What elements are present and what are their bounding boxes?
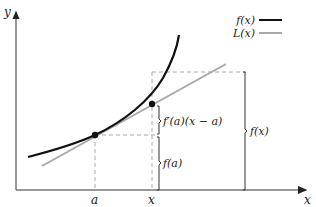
curve-f [28,35,179,157]
brace-fa [157,137,161,190]
legend: f(x) L(x) [232,14,282,40]
brace-fx [243,72,247,190]
y-axis-label: y [3,5,11,19]
x-axis-label: x [304,193,311,207]
tick-label-x: x [148,193,155,207]
brace-increment [157,106,161,134]
legend-label-f: f(x) [235,14,255,27]
legend-label-L: L(x) [232,27,255,40]
label-increment: f′(a)(x − a) [162,115,222,128]
tick-label-a: a [91,193,98,207]
point-L-at-x [149,101,155,107]
label-fa: f(a) [162,157,182,170]
label-fx: f(x) [249,125,269,138]
guide-lines [95,72,246,190]
point-a [92,132,98,138]
braces [157,72,247,190]
linear-approximation-diagram: y x f′(a)(x − a) f(a) f(x) a x f(x) L(x) [0,0,316,207]
